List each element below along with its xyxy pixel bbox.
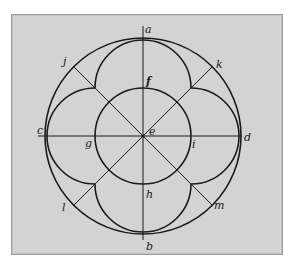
- label-e: e: [149, 125, 156, 138]
- label-d: d: [244, 131, 251, 144]
- label-h: h: [146, 188, 153, 201]
- label-b: b: [146, 240, 153, 253]
- label-g: g: [85, 137, 92, 150]
- label-k: k: [216, 58, 223, 71]
- quatrefoil-construction-diagram: a b c d e f g h i j k l m: [0, 0, 291, 268]
- label-c: c: [37, 124, 43, 137]
- label-f: f: [145, 75, 153, 88]
- label-m: m: [214, 199, 224, 212]
- label-j: j: [60, 55, 67, 68]
- center-point: [141, 134, 144, 137]
- label-l: l: [62, 201, 66, 214]
- label-a: a: [145, 23, 152, 36]
- label-i: i: [192, 138, 196, 151]
